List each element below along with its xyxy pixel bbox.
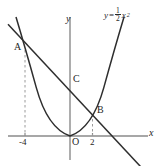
point-label-a: A — [14, 42, 21, 52]
x-tick-label-neg4: -4 — [19, 138, 27, 147]
equation-equals: = — [109, 10, 114, 20]
y-axis-label: y — [66, 14, 70, 24]
equation-label: y = 1 2 x2 — [104, 7, 130, 22]
fraction-one-half: 1 2 — [115, 7, 121, 22]
equation-lhs: y — [104, 10, 108, 20]
fraction-denominator: 2 — [115, 15, 121, 22]
fraction-numerator: 1 — [115, 7, 121, 14]
x-axis-label: x — [149, 128, 153, 138]
equation-variable: x — [122, 10, 126, 20]
point-label-b: B — [97, 105, 104, 115]
equation-exponent: 2 — [127, 12, 130, 18]
origin-label: O — [72, 137, 79, 147]
x-tick-label-2: 2 — [90, 138, 95, 147]
point-label-c: C — [73, 74, 80, 84]
graph-figure: y = 1 2 x2 y x O -4 2 A B C — [0, 0, 160, 166]
